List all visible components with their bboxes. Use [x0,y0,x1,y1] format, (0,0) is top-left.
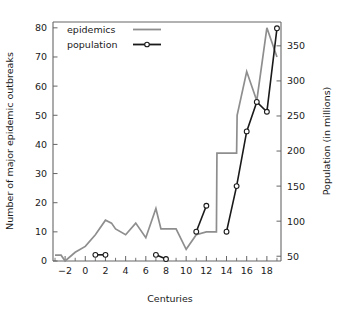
x-axis-tick-label: 10 [180,265,192,276]
right-axis-tick-labels: 50100150200250300350 [287,40,305,261]
right-axis-tick-label: 50 [287,251,299,262]
x-axis-tick-label: 16 [241,265,253,276]
population-segment [227,28,277,231]
plot-frame [53,22,281,261]
left-axis-tick-label: 0 [41,255,47,266]
x-axis-tick-label: 18 [261,265,273,276]
population-data-point [93,252,98,257]
left-axis-tick-label: 40 [35,139,47,150]
x-axis-tick-labels: −2024681012141618 [58,265,273,276]
x-axis-tick-label: 2 [102,265,108,276]
left-axis-tick-label: 30 [35,168,47,179]
legend: epidemics population [67,24,161,50]
right-axis-tick-label: 200 [287,145,305,156]
population-data-point [164,257,169,262]
x-axis-tick-label: 14 [220,265,232,276]
right-axis-tick-label: 250 [287,110,305,121]
population-data-point [264,109,269,114]
y-right-axis-title: Population (in millions) [321,87,332,196]
x-axis-tick-label: 0 [82,265,88,276]
legend-swatch-population-marker [145,42,150,47]
x-axis-tick-label: −2 [58,265,72,276]
legend-label-population: population [67,39,118,50]
left-axis-tick-label: 10 [35,226,47,237]
population-segment [196,206,206,232]
population-data-point [224,229,229,234]
x-axis-tick-label: 8 [163,265,169,276]
series-markers-population [93,26,279,262]
series-line-population [95,28,277,259]
left-axis-tick-label: 80 [35,22,47,33]
chart-container: 01020304050607080 50100150200250300350 −… [0,0,341,311]
x-axis-tick-label: 12 [200,265,212,276]
population-data-point [254,100,259,105]
left-axis-tick-label: 70 [35,51,47,62]
population-data-point [194,229,199,234]
left-axis-tick-label: 60 [35,81,47,92]
population-data-point [275,26,280,31]
left-axis-tick-labels: 01020304050607080 [35,22,47,266]
population-data-point [154,252,159,257]
right-axis-tick-label: 350 [287,40,305,51]
right-axis-tick-label: 100 [287,216,305,227]
right-axis-tick-label: 300 [287,75,305,86]
left-axis-ticks [53,28,58,261]
right-axis-ticks [277,46,282,256]
epidemics-population-chart: 01020304050607080 50100150200250300350 −… [0,0,341,311]
population-data-point [204,203,209,208]
population-data-point [103,252,108,257]
x-axis-tick-label: 6 [143,265,149,276]
left-axis-tick-label: 50 [35,110,47,121]
y-left-axis-title: Number of major epidemic outbreaks [4,52,15,230]
x-axis-tick-label: 4 [123,265,129,276]
population-data-point [244,129,249,134]
left-axis-tick-label: 20 [35,197,47,208]
right-axis-tick-label: 150 [287,181,305,192]
x-axis-title: Centuries [147,293,193,304]
population-data-point [234,184,239,189]
legend-label-epidemics: epidemics [67,24,116,35]
